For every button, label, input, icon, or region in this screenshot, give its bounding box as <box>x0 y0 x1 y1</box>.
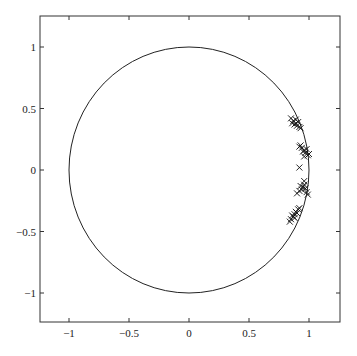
pole-zero-plot: −1−0.500.51 10.50−0.5−1 <box>0 0 357 356</box>
x-tick-label: 0.5 <box>242 327 256 339</box>
y-tick-label: −1 <box>24 287 36 299</box>
y-tick-label: 0 <box>31 164 37 176</box>
y-tick-label: 0.5 <box>22 103 36 115</box>
plot-background <box>0 0 357 356</box>
x-tick-label: 0 <box>186 327 192 339</box>
y-tick-label: −0.5 <box>16 226 36 238</box>
x-tick-label: 1 <box>306 327 312 339</box>
x-tick-label: −0.5 <box>119 327 139 339</box>
y-tick-label: 1 <box>31 41 37 53</box>
x-tick-label: −1 <box>63 327 75 339</box>
